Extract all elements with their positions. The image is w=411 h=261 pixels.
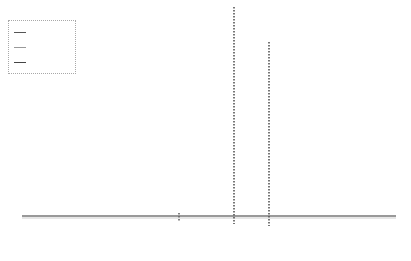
likelihood-swatch-icon bbox=[14, 32, 26, 33]
prior-swatch-icon bbox=[14, 47, 26, 48]
legend-item-posterior bbox=[14, 55, 28, 69]
legend-item-prior bbox=[14, 40, 28, 54]
posterior-swatch-icon bbox=[14, 62, 26, 63]
legend-item-likelihood bbox=[14, 25, 28, 39]
legend bbox=[8, 20, 76, 74]
